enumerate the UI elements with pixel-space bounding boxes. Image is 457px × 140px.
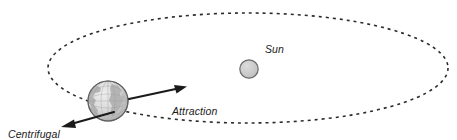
attraction-label: Attraction from the Sun [172,80,233,140]
centrifugal-label-line1: Centrifugal [8,128,60,140]
sun-label: Sun [265,43,284,56]
sun-body [240,60,258,78]
sun-circle [240,60,258,78]
earth-body [88,81,128,121]
attraction-label-line1: Attraction [172,105,233,118]
orbital-force-diagram: Sun Attraction from the Sun Centrifugal … [0,0,457,140]
centrifugal-label: Centrifugal force [8,103,60,140]
